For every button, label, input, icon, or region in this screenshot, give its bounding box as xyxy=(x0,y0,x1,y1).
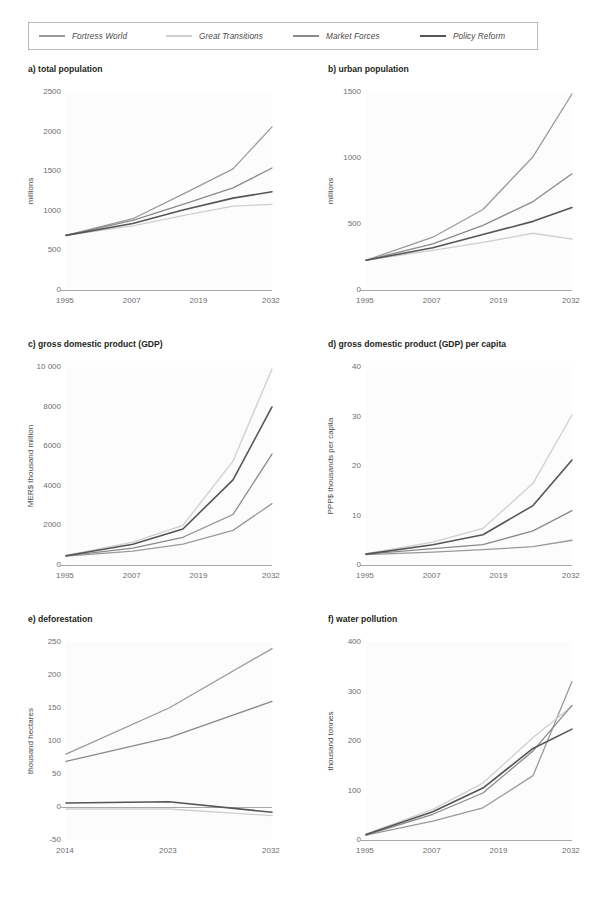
series-f-0 xyxy=(366,682,572,835)
lines-e xyxy=(0,606,300,881)
legend: Fortress World Great Transitions Market … xyxy=(28,22,538,50)
series-b-1 xyxy=(366,233,572,260)
legend-label-great-transitions: Great Transitions xyxy=(199,32,263,41)
chart-grid: a) total population 05001000150020002500… xyxy=(0,56,600,881)
legend-swatch-market-forces xyxy=(293,35,319,37)
lines-b xyxy=(300,56,600,331)
lines-a xyxy=(0,56,300,331)
series-c-2 xyxy=(66,454,272,556)
legend-label-policy-reform: Policy Reform xyxy=(453,32,505,41)
series-d-3 xyxy=(366,460,572,554)
lines-f xyxy=(300,606,600,881)
panel-e: e) deforestation -5005010015020025020142… xyxy=(0,606,300,881)
series-e-3 xyxy=(66,802,272,813)
legend-swatch-great-transitions xyxy=(166,35,192,37)
lines-c xyxy=(0,331,300,606)
series-d-0 xyxy=(366,540,572,554)
series-f-1 xyxy=(366,706,572,834)
series-f-2 xyxy=(366,705,572,835)
panel-a: a) total population 05001000150020002500… xyxy=(0,56,300,331)
series-e-1 xyxy=(66,809,272,816)
legend-item-great-transitions: Great Transitions xyxy=(156,32,283,41)
series-e-2 xyxy=(66,701,272,761)
series-b-0 xyxy=(366,94,572,260)
panel-f: f) water pollution 010020030040019952007… xyxy=(300,606,600,881)
legend-item-fortress-world: Fortress World xyxy=(29,32,156,41)
legend-swatch-fortress-world xyxy=(39,35,65,37)
series-f-3 xyxy=(366,729,572,834)
legend-item-market-forces: Market Forces xyxy=(283,32,410,41)
series-c-3 xyxy=(66,407,272,556)
legend-label-fortress-world: Fortress World xyxy=(72,32,127,41)
series-c-1 xyxy=(66,369,272,556)
panel-b: b) urban population 05001000150019952007… xyxy=(300,56,600,331)
panel-c: c) gross domestic product (GDP) 02000400… xyxy=(0,331,300,606)
series-a-0 xyxy=(66,127,272,236)
panel-d: d) gross domestic product (GDP) per capi… xyxy=(300,331,600,606)
lines-d xyxy=(300,331,600,606)
legend-swatch-policy-reform xyxy=(420,35,446,37)
legend-label-market-forces: Market Forces xyxy=(326,32,380,41)
legend-item-policy-reform: Policy Reform xyxy=(410,32,537,41)
series-d-1 xyxy=(366,415,572,554)
